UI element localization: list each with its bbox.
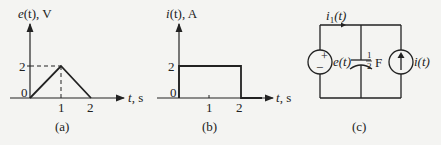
panel-b-y-label: i(t), A xyxy=(166,6,198,21)
panel-a-y-label: e(t), V xyxy=(18,6,52,21)
panel-a-xtick-2: 2 xyxy=(87,100,94,115)
current-arrow-icon xyxy=(341,23,346,28)
capacitor-value-den: 2 xyxy=(367,61,372,71)
current-source-label: i(t) xyxy=(414,54,430,69)
panel-a-caption: (a) xyxy=(55,119,69,134)
current-label: i1(t) xyxy=(326,8,346,25)
panel-b-xtick-2: 2 xyxy=(236,100,243,115)
panel-a-ytick-0: 0 xyxy=(21,85,28,100)
panel-b-xtick-1: 1 xyxy=(206,100,213,115)
panel-a-xtick-1: 1 xyxy=(58,100,65,115)
voltage-source-label: e(t) xyxy=(333,54,351,69)
panel-b-ytick-0: 0 xyxy=(170,85,177,100)
capacitor-value-num: 1 xyxy=(367,50,372,60)
panel-a-chart: e(t), V 2 0 1 2 t, s (a) xyxy=(10,6,143,134)
panel-c-caption: (c) xyxy=(352,119,366,134)
panel-a-x-label: t, s xyxy=(128,90,143,105)
panel-b-chart: i(t), A 2 0 1 2 t, s (b) xyxy=(157,6,291,134)
figure: e(t), V 2 0 1 2 t, s (a) i(t), A 2 0 1 2… xyxy=(0,0,441,145)
current-source-arrow-icon xyxy=(398,52,405,58)
panel-b-pulse-waveform xyxy=(179,66,262,98)
panel-b-x-label: t, s xyxy=(276,90,291,105)
panel-b-ytick-2: 2 xyxy=(168,59,175,74)
capacitor-unit: F xyxy=(375,55,382,70)
panel-a-ytick-2: 2 xyxy=(19,59,26,74)
panel-c-labels: + − i1(t) e(t) 1 2 F i(t) (c) xyxy=(316,8,430,134)
panel-b-caption: (b) xyxy=(202,119,217,134)
voltage-source-minus: − xyxy=(316,60,323,75)
